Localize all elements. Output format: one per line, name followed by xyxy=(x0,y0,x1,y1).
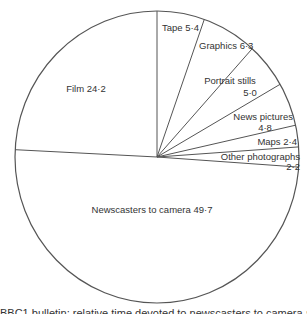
label-news-pictures-value: 4·8 xyxy=(258,122,272,133)
figure-caption: BBC1 bulletin: relative time devoted to … xyxy=(0,306,307,314)
label-maps: Maps 2·4 xyxy=(257,136,297,147)
label-newscasters: Newscasters to camera 49·7 xyxy=(92,204,213,215)
label-other-photographs-value: 2·2 xyxy=(286,161,300,172)
pie-chart: Tape 5·4 Graphics 6·3 Portrait stills 5·… xyxy=(0,0,307,314)
label-tape: Tape 5·4 xyxy=(162,22,199,33)
label-graphics: Graphics 6·3 xyxy=(199,40,253,51)
label-news-pictures: News pictures xyxy=(233,111,293,122)
label-portrait-stills-value: 5·0 xyxy=(243,87,257,98)
label-portrait-stills: Portrait stills xyxy=(204,75,256,86)
label-film: Film 24·2 xyxy=(66,83,106,94)
